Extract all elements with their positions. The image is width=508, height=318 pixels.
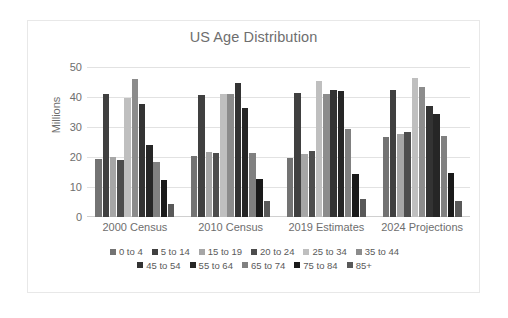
x-axis-label-2: 2019 Estimates <box>279 221 375 233</box>
legend-label: 55 to 64 <box>199 261 233 271</box>
legend-swatch-icon <box>199 249 205 255</box>
bar[interactable] <box>426 106 432 217</box>
legend-label: 35 to 44 <box>365 247 399 257</box>
bar[interactable] <box>301 154 307 217</box>
bar[interactable] <box>117 160 123 217</box>
legend-label: 85+ <box>356 261 372 271</box>
legend-item-45-to-54[interactable]: 45 to 54 <box>137 261 180 271</box>
x-axis-label-0: 2000 Census <box>87 221 183 233</box>
x-axis-label-1: 2010 Census <box>183 221 279 233</box>
legend-label: 75 to 84 <box>303 261 337 271</box>
bar[interactable] <box>191 156 197 217</box>
bar[interactable] <box>419 87 425 217</box>
legend-item-20-to-24[interactable]: 20 to 24 <box>251 247 294 257</box>
bar[interactable] <box>448 173 454 217</box>
x-axis-category-labels: 2000 Census2010 Census2019 Estimates2024… <box>87 221 470 233</box>
bar[interactable] <box>95 159 101 217</box>
y-axis-tick-50: 50 <box>70 62 82 73</box>
legend-item-55-to-64[interactable]: 55 to 64 <box>190 261 233 271</box>
bar[interactable] <box>441 136 447 217</box>
chart-container[interactable]: US Age Distribution Millions 01020304050… <box>27 20 480 293</box>
y-axis-tick-labels: 01020304050 <box>56 67 82 217</box>
bar[interactable] <box>103 94 109 217</box>
bar-group <box>183 67 279 217</box>
legend-label: 0 to 4 <box>119 247 143 257</box>
bar[interactable] <box>146 145 152 217</box>
bar[interactable] <box>433 114 439 218</box>
bar[interactable] <box>412 78 418 217</box>
plot-wrapper: Millions 01020304050 2000 Census2010 Cen… <box>28 21 481 294</box>
bar[interactable] <box>256 179 262 217</box>
legend-item-5-to-14[interactable]: 5 to 14 <box>152 247 190 257</box>
legend-swatch-icon <box>251 249 257 255</box>
bar[interactable] <box>153 162 159 217</box>
bar[interactable] <box>345 129 351 217</box>
legend-item-35-to-44[interactable]: 35 to 44 <box>356 247 399 257</box>
bar[interactable] <box>294 93 300 217</box>
legend-row-1: 0 to 45 to 1415 to 1920 to 2425 to 3435 … <box>28 247 481 257</box>
bar[interactable] <box>198 95 204 217</box>
legend-label: 5 to 14 <box>161 247 190 257</box>
legend-swatch-icon <box>190 262 196 268</box>
bar[interactable] <box>168 204 174 217</box>
bar-group <box>279 67 375 217</box>
bar[interactable] <box>242 108 248 217</box>
legend-item-25-to-34[interactable]: 25 to 34 <box>303 247 346 257</box>
legend-swatch-icon <box>152 249 158 255</box>
legend-label: 45 to 54 <box>146 261 180 271</box>
bar[interactable] <box>220 94 226 217</box>
bar[interactable] <box>264 201 270 217</box>
x-axis-label-3: 2024 Projections <box>374 221 470 233</box>
legend-swatch-icon <box>303 249 309 255</box>
bar[interactable] <box>287 158 293 217</box>
y-axis-tick-0: 0 <box>76 212 82 223</box>
bar[interactable] <box>124 98 130 217</box>
bar[interactable] <box>390 90 396 217</box>
legend-item-15-to-19[interactable]: 15 to 19 <box>199 247 242 257</box>
bar[interactable] <box>227 94 233 217</box>
bar[interactable] <box>206 152 212 217</box>
bar[interactable] <box>161 180 167 217</box>
legend-item-75-to-84[interactable]: 75 to 84 <box>294 261 337 271</box>
legend-item-0-to-4[interactable]: 0 to 4 <box>110 247 143 257</box>
legend-swatch-icon <box>110 249 116 255</box>
bar[interactable] <box>249 153 255 218</box>
bar[interactable] <box>139 104 145 217</box>
bar[interactable] <box>455 201 461 217</box>
y-axis-tick-30: 30 <box>70 122 82 133</box>
legend-label: 25 to 34 <box>312 247 346 257</box>
y-axis-tick-10: 10 <box>70 182 82 193</box>
legend-swatch-icon <box>242 262 248 268</box>
legend-swatch-icon <box>294 262 300 268</box>
bar[interactable] <box>397 134 403 217</box>
bar[interactable] <box>316 81 322 217</box>
bar[interactable] <box>132 79 138 217</box>
legend-label: 65 to 74 <box>251 261 285 271</box>
bar[interactable] <box>338 91 344 217</box>
bar[interactable] <box>323 94 329 217</box>
bar-group <box>374 67 470 217</box>
legend-item-85plus[interactable]: 85+ <box>347 261 372 271</box>
y-axis-tick-40: 40 <box>70 92 82 103</box>
legend-label: 15 to 19 <box>208 247 242 257</box>
bar[interactable] <box>110 157 116 217</box>
legend-swatch-icon <box>347 262 353 268</box>
legend-item-65-to-74[interactable]: 65 to 74 <box>242 261 285 271</box>
legend-swatch-icon <box>356 249 362 255</box>
bar[interactable] <box>213 153 219 217</box>
bars-layer <box>87 67 470 217</box>
bar[interactable] <box>330 90 336 217</box>
bar[interactable] <box>383 137 389 217</box>
bar[interactable] <box>235 83 241 217</box>
bar[interactable] <box>309 151 315 217</box>
bar[interactable] <box>360 199 366 217</box>
legend-label: 20 to 24 <box>260 247 294 257</box>
chart-legend: 0 to 45 to 1415 to 1920 to 2425 to 3435 … <box>28 247 481 274</box>
legend-row-2: 45 to 5455 to 6465 to 7475 to 8485+ <box>28 261 481 271</box>
bar-group <box>87 67 183 217</box>
bar[interactable] <box>352 174 358 217</box>
bar[interactable] <box>404 132 410 217</box>
legend-swatch-icon <box>137 262 143 268</box>
plot-area <box>87 67 470 217</box>
y-axis-tick-20: 20 <box>70 152 82 163</box>
